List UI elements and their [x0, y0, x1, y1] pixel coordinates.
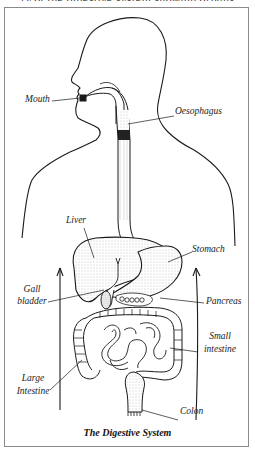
label-gall-bladder-line1: Gall — [14, 284, 50, 295]
label-large-intestine-line1: Large — [14, 373, 52, 384]
figure-caption: The Digestive System — [0, 427, 255, 438]
label-mouth: Mouth — [25, 94, 50, 105]
label-colon: Colon — [180, 406, 203, 417]
large-intestine — [74, 307, 183, 380]
label-oesophagus: Oesophagus — [175, 106, 222, 117]
pancreas — [116, 293, 152, 306]
label-stomach: Stomach — [192, 244, 225, 255]
label-liver: Liver — [66, 215, 86, 226]
label-large-intestine-line2: Intestine — [12, 386, 54, 397]
label-small-intestine-line2: intestine — [198, 344, 242, 355]
label-gall-bladder-line2: bladder — [12, 296, 52, 307]
oesophagus — [80, 82, 154, 258]
label-pancreas: Pancreas — [206, 296, 242, 307]
colon — [125, 372, 144, 416]
small-intestine — [102, 323, 166, 370]
body-outline — [22, 18, 235, 420]
label-small-intestine-line1: Small — [200, 331, 240, 342]
